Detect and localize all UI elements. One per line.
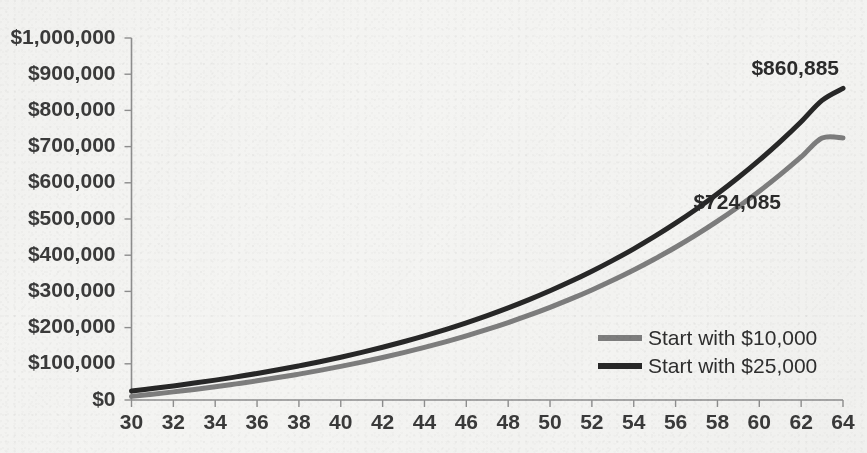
y-axis-tick-label-group: $0$100,000$200,000$300,000$400,000$500,0…: [10, 25, 115, 410]
x-axis-tick-label: 56: [664, 410, 687, 433]
x-axis-tick-label: 40: [329, 410, 352, 433]
y-axis-tick-label: $200,000: [28, 314, 116, 337]
annotation-end-value-light: $724,085: [693, 190, 781, 213]
x-axis-tick-label: 64: [831, 410, 855, 433]
y-axis-tick-label: $900,000: [28, 61, 116, 84]
x-axis-tick-label: 62: [789, 410, 812, 433]
y-axis-tick-label: $400,000: [28, 242, 116, 265]
x-axis-tick-label: 48: [496, 410, 520, 433]
chart-container: $0$100,000$200,000$300,000$400,000$500,0…: [0, 0, 867, 453]
x-axis-tick-label: 42: [371, 410, 394, 433]
series-group: [132, 88, 844, 396]
x-axis-tick-label: 32: [162, 410, 185, 433]
annotation-end-value-dark: $860,885: [751, 56, 839, 79]
x-axis-tick-label: 46: [455, 410, 478, 433]
y-axis-tick-label: $500,000: [28, 206, 116, 229]
y-axis-tick-label: $700,000: [28, 133, 116, 156]
y-axis-tick-label: $800,000: [28, 97, 116, 120]
tick-mark-group: [125, 38, 844, 407]
x-axis-tick-label: 50: [538, 410, 561, 433]
legend-label-2: Start with $25,000: [648, 354, 817, 377]
y-axis-tick-label: $100,000: [28, 350, 116, 373]
x-axis-tick-label: 54: [622, 410, 646, 433]
x-axis-tick-label: 34: [204, 410, 228, 433]
y-axis-tick-label: $600,000: [28, 169, 116, 192]
x-axis-tick-label: 30: [120, 410, 143, 433]
legend-label-1: Start with $10,000: [648, 326, 817, 349]
data-point-label-group: $860,885$724,085: [693, 56, 839, 214]
x-axis-tick-label: 44: [413, 410, 437, 433]
x-axis-tick-label: 38: [287, 410, 311, 433]
x-axis-tick-label: 58: [706, 410, 730, 433]
x-axis-tick-label: 60: [748, 410, 771, 433]
x-axis-tick-label-group: 303234363840424446485052545658606264: [120, 410, 855, 433]
line-chart: $0$100,000$200,000$300,000$400,000$500,0…: [0, 0, 867, 453]
chart-legend: Start with $10,000Start with $25,000: [598, 326, 817, 377]
x-axis-tick-label: 36: [245, 410, 268, 433]
y-axis-tick-label: $1,000,000: [10, 25, 115, 48]
y-axis-tick-label: $300,000: [28, 278, 116, 301]
x-axis-tick-label: 52: [580, 410, 603, 433]
y-axis-tick-label: $0: [92, 387, 115, 410]
